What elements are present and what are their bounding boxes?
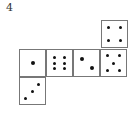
pip-dot bbox=[118, 69, 121, 72]
die-face-5 bbox=[100, 49, 127, 77]
pip-dot bbox=[31, 90, 34, 93]
die-face-3 bbox=[19, 77, 46, 105]
pip-dot bbox=[119, 26, 122, 29]
pip-dot bbox=[112, 62, 115, 65]
pip-dot bbox=[118, 54, 121, 57]
pip-dot bbox=[63, 56, 66, 59]
die-face-2 bbox=[73, 49, 100, 77]
pip-dot bbox=[106, 54, 109, 57]
die-face-4 bbox=[101, 20, 128, 48]
pip-dot bbox=[80, 57, 84, 61]
pip-dot bbox=[119, 39, 122, 42]
pip-dot bbox=[63, 62, 66, 65]
pip-dot bbox=[90, 66, 94, 70]
pip-dot bbox=[63, 67, 66, 70]
pip-dot bbox=[106, 69, 109, 72]
pip-dot bbox=[31, 61, 35, 65]
die-face-6 bbox=[46, 49, 73, 77]
pip-dot bbox=[53, 67, 56, 70]
pip-dot bbox=[24, 97, 27, 100]
pip-dot bbox=[107, 39, 110, 42]
die-face-1 bbox=[19, 49, 46, 77]
pip-dot bbox=[37, 83, 40, 86]
problem-number: 4 bbox=[6, 1, 13, 14]
pip-dot bbox=[53, 56, 56, 59]
pip-dot bbox=[53, 62, 56, 65]
pip-dot bbox=[107, 26, 110, 29]
